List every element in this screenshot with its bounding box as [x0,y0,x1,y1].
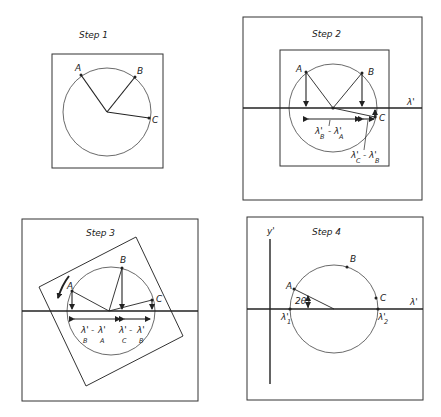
step-2-label-lambda-c-minus-b: λ' C - λ' B [350,150,380,165]
step-3-label-lambda-c-minus-b: λ' - λ' C B [118,325,145,345]
step-4-label-lambda1: λ' 1 [280,312,291,326]
svg-text:B: B [139,337,144,345]
step-3-point-b [121,267,124,270]
step-2-label-lambda-b-minus-a: λ' B - λ' A [314,126,343,141]
step-1-point-a [80,74,83,77]
svg-text:C: C [122,337,127,345]
svg-text:λ': λ' [97,325,106,335]
svg-text:B: B [83,337,88,345]
svg-text:B: B [320,133,325,141]
step-2-panel: Step 2 λ' A B C λ' B - λ' A λ' [243,17,422,200]
step-3-radius-c [109,300,152,311]
svg-text:-: - [129,325,132,335]
step-4-angle-label: 2θ [295,296,307,306]
svg-text:1: 1 [287,318,291,326]
svg-text:A: A [338,133,343,141]
step-2-radius-b [333,73,362,108]
step-4-point-b [346,266,349,269]
step-2-label-a: A [295,64,302,74]
step-2-axis-label: λ' [406,97,415,107]
step-1-label-a: A [74,63,81,73]
svg-text:A: A [99,337,104,345]
step-4-point-lambda1 [288,307,291,310]
step-1-radius-c [107,112,149,118]
step-3-radius-a [72,291,109,311]
step-2-point-a [305,71,308,74]
svg-text:λ': λ' [80,325,89,335]
step-2-radius-c [333,108,375,117]
step-4-point-c [375,297,378,300]
step-2-point-c [374,116,377,119]
step-2-point-b [361,72,364,75]
step-4-label-a: A [285,281,292,291]
step-3-title: Step 3 [86,228,115,238]
step-4-label-lambda2: λ' 2 [377,312,388,326]
svg-text:-: - [91,325,94,335]
svg-text:λ': λ' [136,325,145,335]
step-2-label-c: C [379,113,386,123]
step-4-point-lambda2 [376,307,379,310]
svg-text:-: - [363,150,366,160]
step-4-point-a [293,288,296,291]
step-2-label-b: B [368,67,374,77]
svg-text:λ': λ' [118,325,127,335]
step-3-label-lambda-b-minus-a: λ' - λ' B A [80,325,106,345]
step-3-panel: Step 3 A B C λ' - λ' B A λ' - λ' [22,219,198,401]
diagram-canvas: Step 1 A B C Step 2 λ' A B C [0,0,441,417]
step-2-radius-a [306,72,333,108]
step-4-panel: Step 4 y' λ' 2θ A B C λ' 1 λ' 2 [247,217,423,400]
step-1-title: Step 1 [79,30,108,40]
step-1-point-c [148,117,151,120]
step-3-label-c: C [156,294,163,304]
step-2-title: Step 2 [312,29,341,39]
step-3-point-c [151,299,154,302]
step-1-radius-b [107,77,135,112]
step-3-label-b: B [120,255,126,265]
step-4-x-axis-label: λ' [409,297,418,307]
step-4-title: Step 4 [312,227,341,237]
step-1-label-b: B [137,66,143,76]
step-4-y-axis-label: y' [266,226,275,236]
step-4-label-b: B [350,254,356,264]
step-3-label-a: A [66,281,73,291]
svg-text:2: 2 [384,318,388,326]
svg-text:B: B [375,157,380,165]
step-2-center [331,106,334,109]
svg-text:C: C [356,157,361,165]
step-3-radius-b [109,268,122,311]
step-1-panel: Step 1 A B C [52,30,163,168]
svg-text:-: - [328,126,331,136]
step-1-radius-a [81,75,107,112]
step-4-label-c: C [380,293,387,303]
step-1-label-c: C [152,115,159,125]
